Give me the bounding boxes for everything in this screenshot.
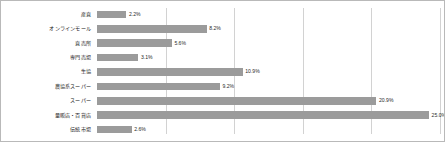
category-label: 生協 — [1, 69, 91, 74]
bar-value-label: 10.9% — [245, 69, 259, 74]
bar — [97, 83, 220, 91]
bar-row: 量販店・百貨店25.0% — [1, 109, 445, 122]
bar-track: 9.2% — [97, 80, 445, 93]
bar — [97, 97, 376, 105]
bar-row: 伝統市場2.6% — [1, 123, 445, 136]
bar-value-label: 8.2% — [209, 26, 221, 31]
category-label: 量販店・百貨店 — [1, 113, 91, 118]
bar-value-label: 9.2% — [223, 84, 235, 89]
bar — [97, 39, 172, 47]
bar-track: 2.2% — [97, 8, 445, 21]
category-label: 農協系スーパー — [1, 84, 91, 89]
bar-row: スーパー20.9% — [1, 94, 445, 107]
category-label: 産直 — [1, 12, 91, 17]
bar — [97, 126, 132, 134]
bar-row: 産直2.2% — [1, 8, 445, 21]
bar-track: 20.9% — [97, 94, 445, 107]
bar-track: 2.6% — [97, 123, 445, 136]
bar-row: オンラインモール8.2% — [1, 22, 445, 35]
bar-value-label: 2.2% — [129, 12, 141, 17]
bar — [97, 11, 126, 19]
category-label: オンラインモール — [1, 26, 91, 31]
bar — [97, 68, 243, 76]
bar-row: 生協10.9% — [1, 66, 445, 79]
bar-value-label: 3.1% — [141, 55, 153, 60]
category-label: 専門売場 — [1, 55, 91, 60]
bar-chart: 産直2.2%オンラインモール8.2%直売所5.6%専門売場3.1%生協10.9%… — [0, 0, 445, 142]
bar-track: 25.0% — [97, 109, 445, 122]
bar — [97, 111, 429, 119]
bar-value-label: 20.9% — [379, 98, 393, 103]
bar — [97, 54, 138, 62]
category-label: スーパー — [1, 98, 91, 103]
category-label: 直売所 — [1, 41, 91, 46]
bar-value-label: 5.6% — [174, 41, 186, 46]
bar-track: 10.9% — [97, 66, 445, 79]
bar-track: 5.6% — [97, 37, 445, 50]
bar-row: 農協系スーパー9.2% — [1, 80, 445, 93]
bar-track: 3.1% — [97, 51, 445, 64]
bar-value-label: 25.0% — [432, 113, 445, 118]
category-label: 伝統市場 — [1, 127, 91, 132]
bar-row: 直売所5.6% — [1, 37, 445, 50]
bar — [97, 25, 207, 33]
bar-track: 8.2% — [97, 22, 445, 35]
bar-row: 専門売場3.1% — [1, 51, 445, 64]
bar-rows: 産直2.2%オンラインモール8.2%直売所5.6%専門売場3.1%生協10.9%… — [1, 8, 445, 136]
bar-value-label: 2.6% — [134, 127, 146, 132]
